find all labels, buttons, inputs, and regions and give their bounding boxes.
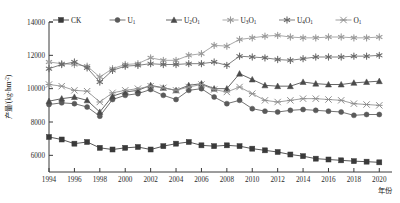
marker-square (326, 157, 331, 162)
marker-circle (288, 108, 293, 113)
marker-circle (161, 93, 166, 98)
series-line (49, 74, 379, 112)
legend-item-U1[interactable]: U1 (110, 16, 136, 26)
y-axis-title-tail: ) (4, 74, 13, 77)
chart-figure: 6000800010000120001400019941996199820002… (0, 0, 400, 203)
marker-cross-star (262, 97, 268, 103)
marker-square (250, 146, 255, 151)
legend-item-CK[interactable]: CK (53, 16, 82, 25)
marker-square (288, 152, 293, 157)
marker-triangle (71, 94, 77, 100)
marker-triangle (249, 76, 255, 82)
marker-square (110, 147, 115, 152)
chart-legend: CKU1U2O1U3O1U4O1O1 (53, 16, 362, 26)
marker-circle (115, 18, 120, 23)
x-tick-label: 2014 (296, 176, 311, 184)
y-tick-label: 8000 (31, 119, 46, 127)
marker-cross-star (300, 96, 306, 102)
chart-canvas: 6000800010000120001400019941996199820002… (0, 0, 400, 203)
marker-square (148, 147, 153, 152)
legend-label: U2O1 (184, 16, 200, 26)
marker-triangle (237, 71, 243, 77)
marker-square (301, 154, 306, 159)
y-axis-title-text: 产量/(kg·hm-2) (4, 74, 13, 119)
marker-square (364, 159, 369, 164)
marker-square (262, 148, 267, 153)
x-tick-label: 2006 (194, 176, 209, 184)
y-tick-label: 14000 (27, 19, 45, 27)
series-CK (47, 135, 382, 165)
marker-circle (351, 113, 356, 118)
legend-label-sub2: 1 (310, 19, 313, 25)
x-axis-title: 年份 (378, 186, 393, 195)
marker-triangle (300, 79, 306, 85)
marker-circle (250, 106, 255, 111)
legend-item-U2O1[interactable]: U2O1 (166, 16, 200, 26)
marker-cross-star (287, 97, 293, 103)
legend-label: U4O1 (297, 16, 313, 26)
marker-square (313, 156, 318, 161)
x-tick-label: 2000 (118, 176, 133, 184)
legend-item-O1[interactable]: O1 (336, 16, 362, 26)
marker-square (97, 145, 102, 150)
marker-cross-star (351, 101, 357, 107)
marker-circle (174, 97, 179, 102)
x-tick-label: 2018 (347, 176, 362, 184)
marker-circle (72, 101, 77, 106)
marker-cross-star (72, 87, 78, 93)
x-tick-label: 2020 (372, 176, 387, 184)
marker-circle (275, 110, 280, 115)
marker-asterisk (224, 62, 229, 68)
marker-square (186, 140, 191, 145)
legend-label: O1 (354, 16, 362, 26)
marker-cross-star (364, 102, 370, 108)
y-axis-title-main: 产量/(kg·hm (4, 81, 13, 119)
legend-label: CK (71, 16, 82, 25)
y-tick-label: 12000 (27, 52, 45, 60)
series-U3O1 (46, 32, 382, 80)
marker-square (174, 141, 179, 146)
marker-circle (262, 109, 267, 114)
x-tick-label: 1998 (93, 176, 108, 184)
marker-square (224, 143, 229, 148)
x-tick-label: 1994 (42, 176, 57, 184)
legend-label-sub: 1 (359, 19, 362, 25)
x-tick-label: 2004 (169, 176, 184, 184)
x-tick-label: 2012 (270, 176, 285, 184)
marker-square (199, 143, 204, 148)
marker-cross-star (249, 91, 255, 97)
x-tick-label: 2008 (220, 176, 235, 184)
legend-item-U3O1[interactable]: U3O1 (223, 16, 257, 26)
marker-circle (237, 98, 242, 103)
marker-square (72, 141, 77, 146)
marker-cross-star (313, 96, 319, 102)
marker-cross-star (376, 102, 382, 108)
marker-cross-star (237, 84, 243, 90)
legend-label: U1 (128, 16, 136, 26)
legend-item-U4O1[interactable]: U4O1 (279, 16, 313, 26)
marker-square (212, 144, 217, 149)
marker-cross-star (97, 99, 103, 105)
marker-square (161, 144, 166, 149)
legend-label-sub2: 1 (254, 19, 257, 25)
legend-label-sub: 1 (133, 19, 136, 25)
y-axis-title: 产量/(kg·hm-2) (4, 74, 13, 119)
marker-square (339, 158, 344, 163)
marker-circle (364, 112, 369, 117)
marker-circle (301, 107, 306, 112)
legend-label-main: CK (71, 16, 82, 25)
marker-square (47, 135, 52, 140)
marker-cross-star (275, 99, 281, 105)
marker-square (123, 145, 128, 150)
marker-square (135, 145, 140, 150)
marker-square (377, 160, 382, 165)
marker-circle (326, 109, 331, 114)
marker-square (275, 150, 280, 155)
marker-triangle (376, 78, 382, 84)
x-tick-label: 2002 (143, 176, 158, 184)
legend-label: U3O1 (241, 16, 257, 26)
x-tick-label: 2010 (245, 176, 260, 184)
marker-cross-star (341, 17, 347, 23)
marker-circle (377, 112, 382, 117)
marker-square (59, 18, 64, 23)
